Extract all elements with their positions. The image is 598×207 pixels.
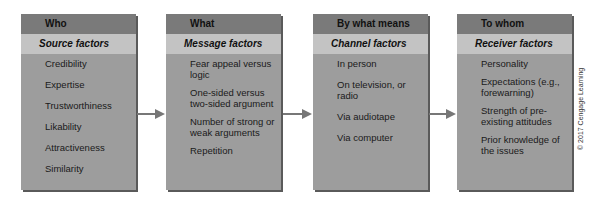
box-subheader: Message factors bbox=[166, 34, 281, 54]
list-item: Via computer bbox=[337, 132, 428, 143]
box-header: To whom bbox=[457, 14, 572, 34]
message-factors-box: What Message factors Fear appeal versus … bbox=[166, 14, 281, 190]
list-item: Strength of pre-existing attitudes bbox=[481, 105, 572, 127]
list-item: Prior knowledge of the issues bbox=[481, 134, 572, 156]
list-item: Similarity bbox=[45, 163, 136, 174]
list-item: Fear appeal versus logic bbox=[190, 58, 281, 80]
list-item: In person bbox=[337, 58, 428, 69]
list-item: Trustworthiness bbox=[45, 100, 136, 111]
list-item: Likability bbox=[45, 121, 136, 132]
list-item: One-sided versus two-sided argument bbox=[190, 87, 281, 109]
list-item: Credibility bbox=[45, 58, 136, 69]
list-item: Repetition bbox=[190, 145, 281, 156]
channel-factors-box: By what means Channel factors In person … bbox=[313, 14, 428, 190]
box-subheader: Source factors bbox=[21, 34, 136, 54]
box-subheader: Receiver factors bbox=[457, 34, 572, 54]
list-item: Personality bbox=[481, 58, 572, 69]
source-factors-box: Who Source factors Credibility Expertise… bbox=[21, 14, 136, 190]
list-item: Via audiotape bbox=[337, 111, 428, 122]
list-item: Expertise bbox=[45, 79, 136, 90]
box-header: By what means bbox=[313, 14, 428, 34]
list-item: Number of strong or weak arguments bbox=[190, 116, 281, 138]
copyright-notice: © 2017 Cengage Learning bbox=[577, 68, 584, 150]
box-subheader: Channel factors bbox=[313, 34, 428, 54]
list-item: Attractiveness bbox=[45, 142, 136, 153]
arrow-connector bbox=[429, 113, 454, 115]
receiver-factors-box: To whom Receiver factors Personality Exp… bbox=[457, 14, 572, 190]
arrow-connector bbox=[283, 113, 310, 115]
box-header: Who bbox=[21, 14, 136, 34]
box-header: What bbox=[166, 14, 281, 34]
arrow-connector bbox=[137, 113, 163, 115]
list-item: Expectations (e.g., forewarning) bbox=[481, 76, 572, 98]
list-item: On television, or radio bbox=[337, 79, 428, 101]
